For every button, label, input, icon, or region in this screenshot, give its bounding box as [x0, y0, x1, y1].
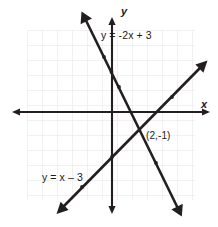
- y-axis-label: y: [121, 6, 127, 17]
- equation-label-line2: y = x – 3: [42, 172, 83, 183]
- x-axis-label: x: [201, 99, 207, 110]
- intersection-point-label: (2,-1): [146, 131, 171, 141]
- equation-label-line1: y = -2x + 3: [101, 30, 152, 41]
- graph-figure: y x y = -2x + 3 y = x – 3 (2,-1): [0, 0, 218, 227]
